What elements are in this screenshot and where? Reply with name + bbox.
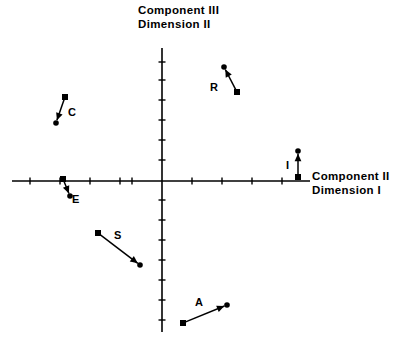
vector-tail-square-marker — [60, 176, 66, 182]
vector-arrowhead — [56, 112, 62, 120]
axis-lines — [12, 48, 310, 332]
vector-head-dot-marker — [295, 148, 301, 154]
vector-head-dot-marker — [221, 64, 227, 70]
vector-head-dot-marker — [224, 302, 230, 308]
vector-tail-square-marker — [180, 320, 186, 326]
vector-arrowhead — [130, 256, 138, 263]
vector-label-r: R — [210, 81, 218, 93]
vector-tail-square-marker — [234, 89, 240, 95]
vector-head-dot-marker — [53, 120, 59, 126]
vector-arrowhead — [295, 154, 302, 162]
vector-head-dot-marker — [137, 262, 143, 268]
figure-canvas: Component III Dimension II Component II … — [0, 0, 411, 338]
vector-tail-square-marker — [95, 230, 101, 236]
vector-label-i: I — [286, 159, 289, 171]
vector-label-a: A — [195, 296, 203, 308]
vector-label-s: S — [114, 229, 121, 241]
vector-label-e: E — [72, 193, 79, 205]
scatter-plot — [0, 0, 411, 338]
vector-markers — [53, 64, 301, 326]
vector-label-c: C — [68, 106, 76, 118]
vector-tail-square-marker — [295, 174, 301, 180]
vector-tail-square-marker — [62, 94, 68, 100]
